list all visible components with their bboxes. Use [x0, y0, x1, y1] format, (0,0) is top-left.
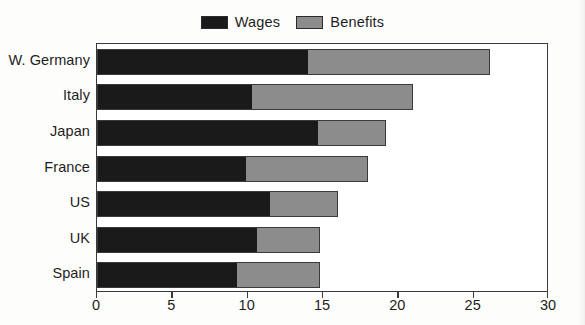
bar-row	[97, 227, 320, 253]
bar-segment-wages	[97, 191, 270, 217]
bar-segment-benefits	[252, 84, 413, 110]
bar-row	[97, 84, 413, 110]
x-tick-label: 25	[465, 297, 481, 313]
bar-segment-wages	[97, 156, 246, 182]
legend-label: Wages	[235, 14, 281, 30]
chart-page: WagesBenefits W. GermanyItalyJapanFrance…	[0, 0, 585, 325]
bar-segment-benefits	[237, 262, 320, 288]
y-axis-label-italy: Italy	[0, 87, 90, 103]
x-tick-label: 10	[239, 297, 255, 313]
bar-row	[97, 191, 338, 217]
legend-swatch-wages	[201, 16, 228, 29]
bar-segment-wages	[97, 262, 237, 288]
chart-legend: WagesBenefits	[0, 14, 585, 30]
bar-segment-benefits	[308, 49, 490, 75]
y-axis-label-japan: Japan	[0, 123, 90, 139]
bar-segment-wages	[97, 84, 252, 110]
y-axis-label-us: US	[0, 194, 90, 210]
plot-area	[96, 43, 548, 292]
legend-entry-wages: Wages	[201, 14, 281, 30]
bar-row	[97, 49, 490, 75]
x-tick-label: 20	[389, 297, 405, 313]
legend-label: Benefits	[330, 14, 384, 30]
bar-segment-wages	[97, 49, 308, 75]
bar-series-container	[97, 44, 547, 291]
bar-segment-benefits	[270, 191, 338, 217]
legend-swatch-benefits	[296, 16, 323, 29]
bar-segment-wages	[97, 227, 257, 253]
bar-row	[97, 120, 386, 146]
bar-row	[97, 262, 320, 288]
scan-edge-shading	[579, 0, 585, 325]
bar-segment-wages	[97, 120, 318, 146]
y-axis-label-uk: UK	[0, 230, 90, 246]
x-tick-label: 0	[92, 297, 100, 313]
bar-segment-benefits	[318, 120, 386, 146]
y-axis-label-w-germany: W. Germany	[0, 52, 90, 68]
x-tick-label: 30	[540, 297, 556, 313]
x-tick-label: 15	[314, 297, 330, 313]
bar-segment-benefits	[246, 156, 368, 182]
legend-entry-benefits: Benefits	[296, 14, 384, 30]
x-axis-tick-labels: 051015202530	[96, 297, 548, 319]
y-axis-label-spain: Spain	[0, 265, 90, 281]
y-axis-label-france: France	[0, 159, 90, 175]
y-axis-category-labels: W. GermanyItalyJapanFranceUSUKSpain	[0, 43, 90, 292]
bar-row	[97, 156, 368, 182]
x-tick-label: 5	[167, 297, 175, 313]
bar-segment-benefits	[257, 227, 320, 253]
